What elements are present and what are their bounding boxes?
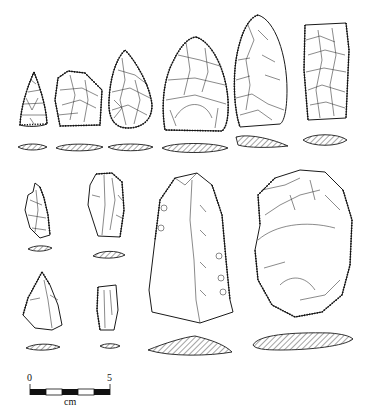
- artifact-3: [109, 50, 152, 128]
- artifact-4-cross-section: [162, 144, 228, 153]
- artifact-2-cross-section: [56, 144, 103, 151]
- artifact-4: [163, 37, 228, 131]
- scale-start-label: 0: [27, 372, 32, 383]
- artifact-9: [23, 272, 62, 330]
- artifact-5-cross-section: [236, 136, 288, 148]
- artifact-7-cross-section: [28, 246, 52, 251]
- artifact-12: [255, 170, 352, 317]
- artifact-plate: [0, 0, 367, 420]
- artifact-5: [234, 15, 287, 127]
- artifact-6-cross-section: [303, 135, 347, 146]
- artifact-6: [304, 23, 349, 120]
- artifact-1: [20, 72, 47, 126]
- artifact-8: [88, 173, 124, 237]
- scale-bar: [30, 384, 110, 395]
- artifact-10-cross-section: [100, 344, 120, 349]
- artifact-11: [149, 173, 233, 323]
- artifact-11-cross-section: [148, 336, 232, 355]
- artifact-2: [55, 71, 102, 126]
- scale-end-label: 5: [107, 372, 112, 383]
- scale-unit-label: cm: [64, 396, 76, 407]
- artifact-10: [97, 285, 118, 330]
- artifact-8-cross-section: [93, 251, 125, 258]
- artifact-9-cross-section: [26, 344, 60, 350]
- artifact-7: [25, 183, 50, 238]
- artifact-3-cross-section: [108, 144, 153, 151]
- artifact-12-cross-section: [253, 333, 353, 350]
- artifact-1-cross-section: [18, 144, 47, 150]
